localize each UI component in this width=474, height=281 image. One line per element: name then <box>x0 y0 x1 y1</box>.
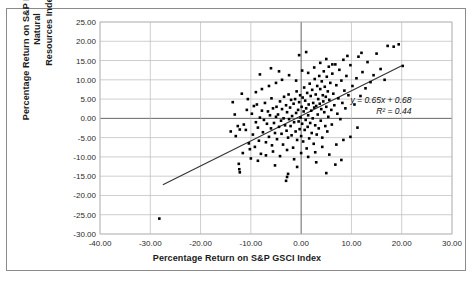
r-squared-label: R² = 0.44 <box>350 106 411 117</box>
y-tick-label: 0.00 <box>56 114 96 123</box>
y-axis-title: Percentage Return on S&P North America N… <box>20 0 55 137</box>
x-tick-label: -40.00 <box>89 239 112 248</box>
regression-annotation: y = 0.65x + 0.68 R² = 0.44 <box>350 95 411 117</box>
x-tick-label: 0.00 <box>293 239 309 248</box>
y-tick-label: -30.00 <box>56 230 96 239</box>
x-axis-title: Percentage Return on S&P GSCI Index <box>0 253 474 263</box>
y-axis-title-line-1: Percentage Return on S&P North America N… <box>20 0 43 137</box>
y-tick-label: 25.00 <box>56 18 96 27</box>
y-tick-label: 10.00 <box>56 75 96 84</box>
y-tick-label: -20.00 <box>56 191 96 200</box>
trendline <box>163 66 402 185</box>
y-tick-label: -25.00 <box>56 210 96 219</box>
y-axis-title-line-2: Resources Index <box>43 0 55 137</box>
x-tick-label: 10.00 <box>341 239 361 248</box>
y-axis-title-container: Percentage Return on S&P North America N… <box>23 0 53 137</box>
y-tick-label: 15.00 <box>56 56 96 65</box>
y-tick-label: -15.00 <box>56 172 96 181</box>
y-tick-label: -10.00 <box>56 152 96 161</box>
x-tick-label: 20.00 <box>392 239 412 248</box>
x-tick-label: -30.00 <box>139 239 162 248</box>
regression-equation: y = 0.65x + 0.68 <box>350 95 411 106</box>
x-tick-label: -20.00 <box>189 239 212 248</box>
y-tick-label: 20.00 <box>56 37 96 46</box>
x-tick-label: 30.00 <box>442 239 462 248</box>
x-tick-label: -10.00 <box>240 239 263 248</box>
data-points <box>158 43 404 220</box>
y-tick-label: -5.00 <box>56 133 96 142</box>
y-tick-label: 5.00 <box>56 95 96 104</box>
